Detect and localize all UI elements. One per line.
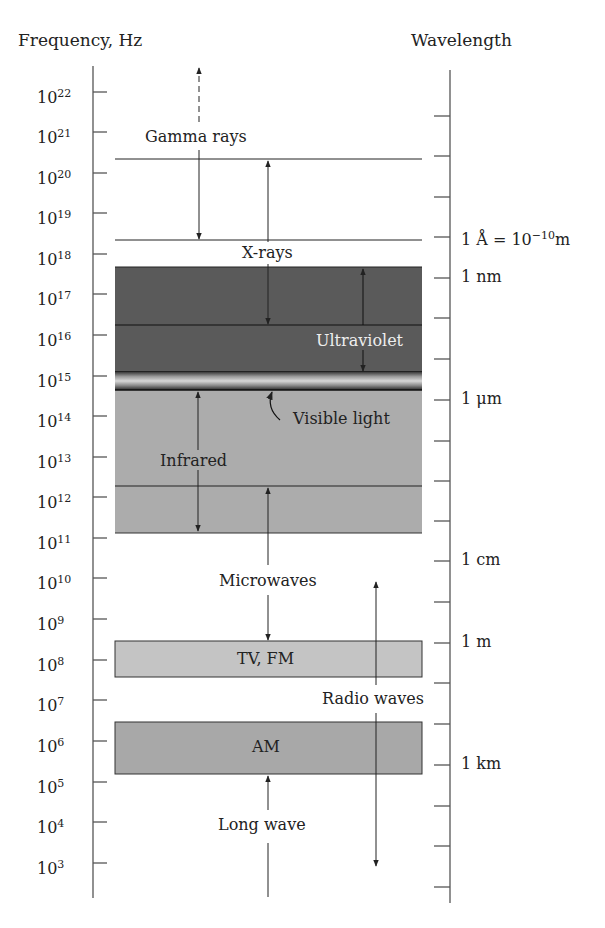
spectrum-diagram xyxy=(0,0,605,928)
label-tv-fm: TV, FM xyxy=(237,650,294,668)
frequency-tick-label: 1022 xyxy=(37,86,81,106)
frequency-tick-label: 106 xyxy=(37,735,81,755)
frequency-tick-label: 1020 xyxy=(37,167,81,187)
frequency-tick-label: 104 xyxy=(37,816,81,836)
label-x-rays: X-rays xyxy=(240,244,295,262)
frequency-tick-label: 1021 xyxy=(37,126,81,146)
wavelength-label: 1 Å = 10−10m xyxy=(461,228,570,248)
frequency-tick-label: 105 xyxy=(37,776,81,796)
label-ultraviolet: Ultraviolet xyxy=(314,332,405,350)
label-visible-light: Visible light xyxy=(293,410,390,428)
label-gamma-rays: Gamma rays xyxy=(143,128,249,146)
label-microwaves: Microwaves xyxy=(217,572,319,590)
frequency-tick-label: 1019 xyxy=(37,207,81,227)
frequency-tick-label: 109 xyxy=(37,613,81,633)
frequency-tick-label: 1016 xyxy=(37,329,81,349)
frequency-tick-label: 103 xyxy=(37,857,81,877)
label-radio-waves: Radio waves xyxy=(320,690,426,708)
frequency-axis xyxy=(93,66,107,898)
wavelength-label: 1 μm xyxy=(461,391,502,407)
frequency-tick-label: 1017 xyxy=(37,288,81,308)
label-am: AM xyxy=(252,738,280,756)
visible-band xyxy=(115,372,422,390)
wavelength-axis xyxy=(434,70,450,903)
label-long-wave: Long wave xyxy=(216,816,308,834)
frequency-tick-label: 1012 xyxy=(37,491,81,511)
label-infrared: Infrared xyxy=(158,452,229,470)
frequency-tick-label: 1010 xyxy=(37,572,81,592)
frequency-tick-label: 1011 xyxy=(37,532,81,552)
wavelength-label: 1 nm xyxy=(461,269,502,285)
wavelength-label: 1 cm xyxy=(461,552,500,568)
frequency-tick-label: 108 xyxy=(37,654,81,674)
wavelength-label: 1 m xyxy=(461,634,491,650)
frequency-tick-label: 1014 xyxy=(37,410,81,430)
frequency-tick-label: 107 xyxy=(37,694,81,714)
wavelength-label: 1 km xyxy=(461,756,501,772)
frequency-tick-label: 1015 xyxy=(37,370,81,390)
frequency-tick-label: 1018 xyxy=(37,248,81,268)
frequency-tick-label: 1013 xyxy=(37,451,81,471)
